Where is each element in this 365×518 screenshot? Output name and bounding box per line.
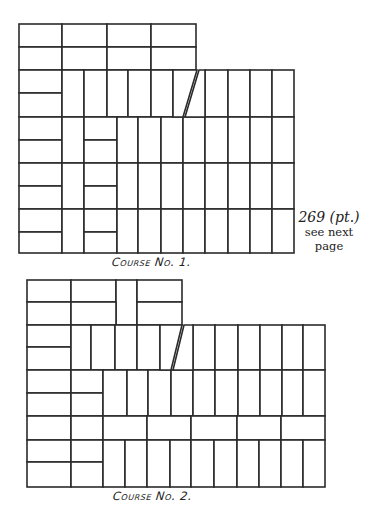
- brick: [84, 232, 117, 253]
- brick: [19, 117, 62, 140]
- brick: [170, 440, 191, 487]
- brick: [238, 370, 260, 416]
- brick: [250, 163, 272, 209]
- brick: [84, 140, 117, 163]
- brick: [138, 117, 161, 163]
- brick: [272, 209, 294, 253]
- brick: [137, 325, 160, 370]
- brick: [27, 393, 71, 416]
- course-1-label: Course No. 1.: [111, 255, 192, 269]
- brick: [62, 70, 84, 117]
- brick: [71, 302, 116, 325]
- brick: [228, 209, 250, 253]
- brick: [27, 325, 71, 347]
- course-2-label: Course No. 2.: [112, 489, 193, 503]
- brick: [62, 209, 84, 253]
- brick: [228, 163, 250, 209]
- brick: [71, 325, 91, 370]
- brick: [205, 163, 228, 209]
- brick: [117, 163, 138, 209]
- brick: [62, 117, 84, 163]
- brick: [205, 70, 228, 117]
- brick: [27, 416, 71, 440]
- brick: [71, 416, 103, 440]
- brick: [137, 302, 182, 325]
- brick: [147, 416, 191, 440]
- brick: [62, 163, 84, 209]
- brick: [193, 370, 215, 416]
- page-note-line-2: page: [294, 239, 364, 253]
- course-1-pattern: [19, 24, 294, 253]
- brick: [19, 70, 62, 93]
- brick: [250, 209, 272, 253]
- brick: [228, 117, 250, 163]
- course-2-pattern: [27, 280, 325, 487]
- brick: [115, 325, 137, 370]
- page-note: 269 (pt.) see next page: [294, 209, 364, 253]
- brick: [84, 117, 117, 140]
- brick: [107, 24, 151, 47]
- brick: [250, 117, 272, 163]
- brick: [27, 302, 71, 325]
- brick: [62, 24, 107, 47]
- brick: [107, 47, 151, 70]
- brick: [237, 440, 259, 487]
- brick: [238, 325, 260, 370]
- brick: [260, 325, 282, 370]
- brick: [171, 370, 193, 416]
- brick: [161, 209, 183, 253]
- brick: [228, 70, 250, 117]
- brick: [84, 209, 117, 232]
- brick: [161, 163, 183, 209]
- brick: [215, 370, 238, 416]
- brick: [303, 370, 325, 416]
- brick: [259, 440, 281, 487]
- brick: [281, 416, 325, 440]
- brick: [272, 70, 294, 117]
- brick: [27, 347, 71, 370]
- brick: [19, 163, 62, 186]
- brick: [183, 209, 205, 253]
- brick: [27, 462, 71, 487]
- brick: [117, 117, 138, 163]
- brick: [215, 325, 238, 370]
- brick: [127, 370, 148, 416]
- brick: [84, 70, 107, 117]
- brick: [260, 370, 282, 416]
- brick: [303, 440, 325, 487]
- brick: [272, 163, 294, 209]
- brick: [91, 325, 115, 370]
- brick: [117, 209, 138, 253]
- brick: [183, 163, 205, 209]
- brick: [103, 440, 125, 487]
- brick: [103, 370, 127, 416]
- brick: [19, 209, 62, 232]
- brick: [191, 440, 214, 487]
- brick: [237, 416, 281, 440]
- brick: [19, 47, 62, 70]
- brick: [191, 416, 237, 440]
- brick: [151, 24, 196, 47]
- brick: [125, 440, 147, 487]
- brick: [27, 370, 71, 393]
- brick: [205, 209, 228, 253]
- brick: [250, 70, 272, 117]
- brick: [193, 325, 215, 370]
- page-number: 269 (pt.): [294, 209, 364, 225]
- brick: [84, 186, 117, 209]
- brick: [71, 440, 103, 462]
- brick: [19, 140, 62, 163]
- brick: [147, 440, 170, 487]
- brick: [71, 280, 116, 302]
- brick: [205, 117, 228, 163]
- brick: [151, 70, 173, 117]
- brick: [71, 462, 103, 487]
- brick: [183, 117, 205, 163]
- brick: [138, 209, 161, 253]
- brick: [161, 117, 183, 163]
- brick: [214, 440, 237, 487]
- brick: [128, 70, 151, 117]
- brick: [27, 280, 71, 302]
- brick: [282, 370, 303, 416]
- brick: [137, 280, 182, 302]
